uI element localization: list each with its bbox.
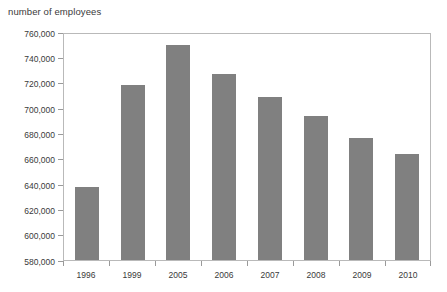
plot-frame (63, 33, 431, 261)
x-axis-tick-mark (155, 261, 156, 266)
x-axis-tick-label-2010: 2010 (399, 271, 418, 292)
bar-1996[interactable] (75, 187, 99, 260)
bar-2007[interactable] (258, 97, 282, 260)
bar-1999[interactable] (121, 85, 145, 260)
bar-slot (384, 34, 430, 260)
x-axis-tick-label-2005: 2005 (169, 271, 188, 292)
y-axis: 760,000740,000720,000700,000680,000660,0… (0, 33, 63, 261)
x-axis-slot: 2008 (293, 261, 339, 292)
y-axis-tick-label: 760,000 (24, 29, 55, 38)
x-axis-tick-mark (63, 261, 64, 266)
chart-title: number of employees (8, 6, 101, 17)
x-axis-tick-label-2008: 2008 (307, 271, 326, 292)
x-axis-slot: 1996 (63, 261, 109, 292)
y-axis-tick-label: 680,000 (24, 131, 55, 140)
x-axis-tick-mark (385, 261, 386, 266)
bar-slot (110, 34, 156, 260)
x-axis-tick-mark (293, 261, 294, 266)
x-axis-tick-mark (109, 261, 110, 266)
bar-slot (247, 34, 293, 260)
bar-slot (339, 34, 385, 260)
x-axis-slot: 2005 (155, 261, 201, 292)
x-axis-tick-label-2006: 2006 (215, 271, 234, 292)
x-axis-tick-label-1996: 1996 (77, 271, 96, 292)
x-axis-tick-label-2009: 2009 (353, 271, 372, 292)
x-axis-slot: 2009 (339, 261, 385, 292)
bar-2010[interactable] (395, 154, 419, 260)
y-axis-tick-label: 620,000 (24, 207, 55, 216)
x-axis-tick-label-1999: 1999 (123, 271, 142, 292)
x-axis-end-tick (430, 261, 431, 266)
x-axis: 19961999200520062007200820092010 (63, 261, 431, 292)
plot-area (64, 34, 430, 260)
y-axis-tick-label: 640,000 (24, 181, 55, 190)
y-axis-tick-label: 700,000 (24, 105, 55, 114)
bar-slot (293, 34, 339, 260)
y-axis-tick-label: 600,000 (24, 232, 55, 241)
x-axis-tick-mark (339, 261, 340, 266)
x-axis-slot: 2006 (201, 261, 247, 292)
y-axis-tick-label: 580,000 (24, 257, 55, 266)
bar-slot (64, 34, 110, 260)
x-axis-slot: 1999 (109, 261, 155, 292)
bar-slot (201, 34, 247, 260)
x-axis-tick-mark (247, 261, 248, 266)
bar-chart: number of employees 760,000740,000720,00… (0, 0, 447, 292)
y-axis-tick-label: 740,000 (24, 55, 55, 64)
bar-2008[interactable] (304, 116, 328, 260)
bar-2005[interactable] (166, 45, 190, 260)
y-axis-tick-label: 720,000 (24, 80, 55, 89)
bar-2006[interactable] (212, 74, 236, 260)
x-axis-tick-label-2007: 2007 (261, 271, 280, 292)
x-axis-slot: 2010 (385, 261, 431, 292)
bar-2009[interactable] (349, 138, 373, 260)
y-axis-tick-label: 660,000 (24, 156, 55, 165)
x-axis-slot: 2007 (247, 261, 293, 292)
x-axis-tick-mark (201, 261, 202, 266)
bar-slot (156, 34, 202, 260)
